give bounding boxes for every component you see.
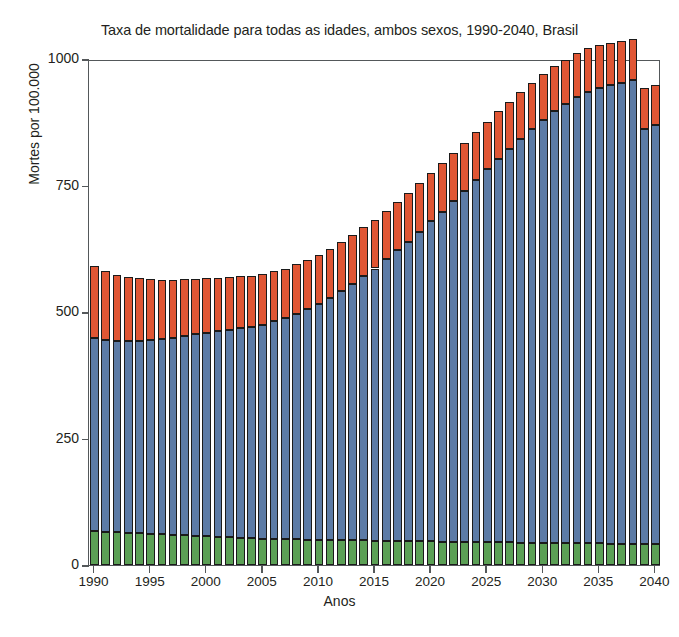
bar-2032 (561, 60, 570, 565)
bar-segment-segmento-superior (292, 264, 301, 314)
bar-2039 (640, 88, 649, 565)
bar-segment-segmento-medio (505, 149, 514, 543)
bar-segment-segmento-superior (516, 92, 525, 139)
x-tick-label: 2010 (294, 574, 342, 589)
bar-1994 (135, 278, 144, 565)
bar-segment-segmento-inferior (606, 544, 615, 565)
bar-2014 (359, 227, 368, 565)
bar-segment-segmento-medio (539, 120, 548, 543)
x-tick-mark (261, 566, 262, 573)
bar-segment-segmento-medio (135, 341, 144, 533)
bar-segment-segmento-medio (214, 331, 223, 536)
chart-container: Taxa de mortalidade para todas as idades… (0, 0, 679, 637)
bar-segment-segmento-superior (236, 276, 245, 328)
bar-segment-segmento-medio (483, 169, 492, 542)
bar-segment-segmento-superior (505, 102, 514, 149)
bar-segment-segmento-inferior (371, 541, 380, 565)
bar-segment-segmento-inferior (214, 537, 223, 565)
bar-segment-segmento-medio (494, 159, 503, 543)
bar-2011 (326, 249, 335, 565)
bar-segment-segmento-medio (258, 325, 267, 539)
bar-2021 (438, 163, 447, 565)
bar-segment-segmento-medio (180, 336, 189, 535)
bar-segment-segmento-inferior (101, 532, 110, 565)
x-tick-label: 2015 (350, 574, 398, 589)
bar-segment-segmento-superior (281, 269, 290, 319)
bar-segment-segmento-medio (169, 338, 178, 535)
bar-segment-segmento-medio (247, 327, 256, 539)
plot-area (88, 60, 660, 566)
bar-2035 (595, 45, 604, 565)
bar-segment-segmento-inferior (169, 535, 178, 565)
bar-segment-segmento-inferior (393, 541, 402, 565)
x-tick-label: 1990 (70, 574, 118, 589)
bar-segment-segmento-superior (415, 183, 424, 232)
bar-2030 (539, 74, 548, 565)
bar-segment-segmento-superior (247, 276, 256, 327)
bar-segment-segmento-inferior (258, 539, 267, 565)
bar-segment-segmento-superior (584, 48, 593, 92)
bar-segment-segmento-medio (640, 129, 649, 544)
bar-segment-segmento-medio (225, 330, 234, 537)
y-tick-label: 1000 (48, 50, 79, 66)
bar-2018 (404, 193, 413, 565)
bar-segment-segmento-medio (202, 333, 211, 536)
bar-segment-segmento-inferior (359, 540, 368, 565)
bar-2006 (270, 271, 279, 565)
bar-1990 (90, 266, 99, 565)
chart-title: Taxa de mortalidade para todas as idades… (0, 22, 679, 38)
bar-segment-segmento-medio (460, 191, 469, 542)
bar-2033 (573, 53, 582, 565)
y-tick-label: 500 (56, 303, 79, 319)
bar-segment-segmento-inferior (348, 540, 357, 565)
bar-2000 (202, 278, 211, 565)
bar-segment-segmento-medio (595, 88, 604, 543)
x-tick-mark (205, 566, 206, 573)
x-tick-label: 2020 (406, 574, 454, 589)
bar-segment-segmento-inferior (494, 542, 503, 565)
bar-segment-segmento-medio (348, 284, 357, 541)
bar-segment-segmento-superior (539, 74, 548, 120)
bar-segment-segmento-medio (404, 242, 413, 542)
bar-segment-segmento-superior (472, 132, 481, 180)
bar-segment-segmento-superior (617, 41, 626, 83)
bar-segment-segmento-inferior (472, 542, 481, 565)
bar-1999 (191, 279, 200, 565)
bar-2017 (393, 202, 402, 565)
bar-segment-segmento-superior (393, 202, 402, 251)
bar-2037 (617, 41, 626, 565)
bar-segment-segmento-superior (629, 39, 638, 80)
bar-segment-segmento-superior (146, 279, 155, 340)
bar-segment-segmento-medio (427, 221, 436, 541)
bar-segment-segmento-inferior (640, 544, 649, 565)
bar-segment-segmento-superior (573, 53, 582, 97)
bar-segment-segmento-inferior (415, 541, 424, 565)
bar-segment-segmento-inferior (247, 538, 256, 565)
bar-segment-segmento-inferior (180, 535, 189, 565)
bar-segment-segmento-superior (382, 211, 391, 260)
bar-segment-segmento-medio (281, 318, 290, 539)
bar-segment-segmento-inferior (404, 541, 413, 565)
bar-2012 (337, 242, 346, 565)
bar-segment-segmento-inferior (382, 541, 391, 565)
x-tick-mark (429, 566, 430, 573)
bar-segment-segmento-medio (303, 309, 312, 539)
bar-2036 (606, 43, 615, 565)
bar-1998 (180, 279, 189, 565)
bar-segment-segmento-inferior (561, 543, 570, 565)
bar-segment-segmento-medio (606, 85, 615, 543)
bar-segment-segmento-inferior (292, 539, 301, 565)
bar-segment-segmento-inferior (225, 537, 234, 565)
bar-2007 (281, 268, 290, 565)
bar-segment-segmento-inferior (337, 540, 346, 565)
bar-segment-segmento-superior (460, 143, 469, 191)
x-tick-mark (485, 566, 486, 573)
bar-segment-segmento-inferior (449, 542, 458, 565)
y-tick-label: 0 (71, 556, 79, 572)
bar-segment-segmento-inferior (236, 538, 245, 565)
bar-segment-segmento-superior (494, 111, 503, 159)
bar-segment-segmento-superior (528, 83, 537, 129)
bar-segment-segmento-medio (124, 341, 133, 532)
bar-2020 (427, 173, 436, 565)
bar-segment-segmento-inferior (505, 542, 514, 565)
